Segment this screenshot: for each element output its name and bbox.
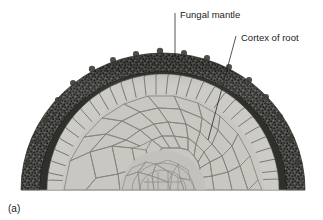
label-cortex-of-root: Cortex of root: [241, 32, 299, 43]
figure-panel: Fungal mantle Cortex of root (a): [0, 0, 323, 220]
label-fungal-mantle: Fungal mantle: [180, 9, 240, 20]
root-cross-section-diagram: Fungal mantle Cortex of root (a): [0, 0, 323, 220]
figure-caption: (a): [8, 203, 20, 214]
